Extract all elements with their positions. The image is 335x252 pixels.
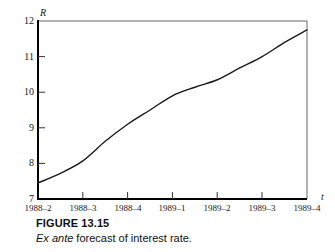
y-tick-label-12: 12 bbox=[8, 16, 34, 26]
figure-description: Ex ante forecast of interest rate. bbox=[36, 231, 326, 245]
figure-container: 12 11 10 9 8 7 1988–2 1988–3 1988–4 1989… bbox=[0, 0, 335, 252]
y-tick-label-10: 10 bbox=[8, 87, 34, 97]
y-tick-label-11: 11 bbox=[8, 52, 34, 62]
caption-rest-text: forecast of interest rate. bbox=[73, 232, 192, 244]
forecast-line bbox=[38, 30, 307, 183]
y-axis-variable-label: R bbox=[40, 8, 46, 18]
y-tick-label-8: 8 bbox=[8, 158, 34, 168]
figure-caption: FIGURE 13.15 Ex ante forecast of interes… bbox=[36, 217, 326, 245]
y-tick-label-9: 9 bbox=[8, 123, 34, 133]
y-tick-marks bbox=[38, 57, 45, 164]
chart-canvas bbox=[0, 0, 335, 214]
x-tick-marks bbox=[83, 192, 262, 199]
plot-area: 12 11 10 9 8 7 1988–2 1988–3 1988–4 1989… bbox=[0, 0, 335, 214]
caption-emphasis-text: Ex ante bbox=[36, 232, 73, 244]
figure-number: FIGURE 13.15 bbox=[36, 217, 326, 230]
x-axis-variable-label: t bbox=[321, 192, 324, 202]
x-tick-label-1989-4: 1989–4 bbox=[281, 203, 333, 213]
